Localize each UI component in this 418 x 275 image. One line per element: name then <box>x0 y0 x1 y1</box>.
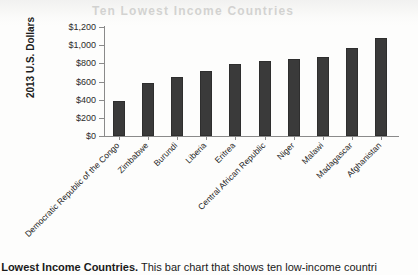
bar <box>346 48 358 136</box>
y-axis-tick-mark <box>99 136 104 137</box>
bar <box>375 38 387 136</box>
x-axis-tick-mark <box>177 136 178 140</box>
y-axis-tick-label: $800 <box>48 59 96 68</box>
x-axis-tick-mark <box>119 136 120 140</box>
caption-body: This bar chart that shows ten low-income… <box>138 261 377 273</box>
x-axis-tick-mark <box>294 136 295 140</box>
bar-chart-figure: 2013 U.S. Dollars $1,200$1,000$800$600$4… <box>0 0 418 275</box>
x-axis-tick-mark <box>381 136 382 140</box>
y-axis-tick-label: $400 <box>48 96 96 105</box>
plot-area <box>104 27 396 136</box>
bar <box>171 77 183 136</box>
figure-caption: e Lowest Income Countries. This bar char… <box>0 261 418 274</box>
x-axis-tick-mark <box>206 136 207 140</box>
caption-title: e Lowest Income Countries. <box>0 261 138 273</box>
y-axis-tick-labels: $1,200$1,000$800$600$400$200$0 <box>46 0 96 275</box>
y-axis-tick-label: $0 <box>48 132 96 141</box>
bar <box>288 59 300 136</box>
x-axis-tick-mark <box>323 136 324 140</box>
y-axis-tick-label: $1,000 <box>48 41 96 50</box>
x-axis-tick-mark <box>235 136 236 140</box>
x-axis-tick-mark <box>265 136 266 140</box>
bar <box>113 101 125 136</box>
bar <box>229 64 241 136</box>
x-axis-tick-mark <box>352 136 353 140</box>
bar <box>259 61 271 136</box>
bar <box>142 83 154 136</box>
x-axis-tick-mark <box>148 136 149 140</box>
y-axis-tick-label: $1,200 <box>48 23 96 32</box>
y-axis-title: 2013 U.S. Dollars <box>25 0 36 118</box>
bar <box>200 71 212 136</box>
bar <box>317 57 329 136</box>
y-axis-tick-label: $200 <box>48 114 96 123</box>
y-axis-tick-label: $600 <box>48 78 96 87</box>
